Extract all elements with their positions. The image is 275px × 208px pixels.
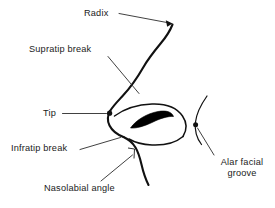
label-nasolabial-angle: Nasolabial angle xyxy=(44,183,115,194)
nasolabial-angle-marker xyxy=(128,148,135,159)
nostril-shape xyxy=(131,111,174,128)
nasal-dorsum-path xyxy=(110,25,172,111)
alar-base-path xyxy=(129,137,183,146)
label-alar-facial-groove-line1: Alar facial xyxy=(221,157,263,167)
radix-leader-line xyxy=(119,14,170,24)
label-radix: Radix xyxy=(84,8,108,19)
alar-facial-groove-point-marker xyxy=(193,122,198,127)
nasolabial-angle-leader-line xyxy=(101,155,133,181)
nose-profile-diagram: Radix Supratip break Tip Infratip break … xyxy=(0,0,275,208)
label-infratip-break: Infratip break xyxy=(11,143,67,154)
tip-point-marker xyxy=(107,111,112,116)
label-tip: Tip xyxy=(43,108,56,119)
label-alar-facial-groove: Alar facial groove xyxy=(211,157,273,178)
alar-facial-arc-path xyxy=(195,96,207,145)
supratip-break-leader-line xyxy=(108,57,139,94)
infratip-break-leader-line xyxy=(80,138,121,150)
label-supratip-break: Supratip break xyxy=(29,44,91,55)
label-alar-facial-groove-line2: groove xyxy=(227,168,256,178)
